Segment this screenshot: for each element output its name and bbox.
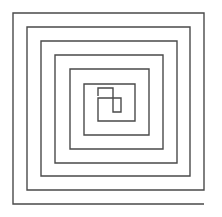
square-spiral-figure xyxy=(0,0,222,217)
figure-canvas xyxy=(0,0,222,217)
figure-background xyxy=(0,0,222,217)
